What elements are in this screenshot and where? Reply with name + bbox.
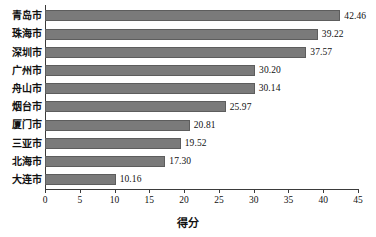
bar [45, 29, 318, 40]
bar [45, 120, 190, 131]
bar-value-label: 37.57 [310, 45, 332, 59]
bar-value-label: 25.97 [230, 100, 252, 114]
bar [45, 174, 116, 185]
x-axis-tick-mark [149, 189, 150, 193]
category-label: 广州市 [0, 65, 42, 77]
category-label: 青岛市 [0, 10, 42, 22]
bar-value-label: 30.14 [259, 81, 281, 95]
bar-value-label: 42.46 [344, 9, 366, 23]
bar-row: 10.16 [45, 171, 358, 189]
bar [45, 47, 306, 58]
x-axis-tick-mark [80, 189, 81, 193]
category-label: 珠海市 [0, 28, 42, 40]
x-axis-tick-label: 35 [284, 194, 294, 206]
x-axis-line [45, 189, 359, 190]
x-axis-tick-label: 45 [353, 194, 363, 206]
x-axis-tick-mark [184, 189, 185, 193]
y-axis-category-labels: 青岛市珠海市深圳市广州市舟山市烟台市厦门市三亚市北海市大连市 [0, 7, 42, 189]
category-label: 厦门市 [0, 119, 42, 131]
x-axis-tick-label: 15 [145, 194, 155, 206]
x-axis-tick-label: 25 [214, 194, 224, 206]
x-axis-tick-label: 5 [77, 194, 82, 206]
x-axis-tick-mark [219, 189, 220, 193]
category-label: 烟台市 [0, 101, 42, 113]
x-axis-tick-mark [254, 189, 255, 193]
x-axis-tick-mark [115, 189, 116, 193]
bar-row: 30.14 [45, 80, 358, 98]
bar-row: 39.22 [45, 25, 358, 43]
bar [45, 65, 255, 76]
bar [45, 156, 165, 167]
bar [45, 83, 255, 94]
bar-row: 37.57 [45, 43, 358, 61]
bar-value-label: 17.30 [169, 154, 191, 168]
bar-row: 20.81 [45, 116, 358, 134]
category-label: 三亚市 [0, 138, 42, 150]
x-axis-tick-mark [288, 189, 289, 193]
category-label: 大连市 [0, 174, 42, 186]
x-axis-tick-mark [323, 189, 324, 193]
category-label: 舟山市 [0, 83, 42, 95]
bar-value-label: 39.22 [322, 27, 344, 41]
x-axis-tick-label: 10 [110, 194, 120, 206]
bar [45, 101, 226, 112]
bar-value-label: 30.20 [259, 63, 281, 77]
bar-row: 19.52 [45, 134, 358, 152]
x-axis-title: 得分 [0, 214, 376, 230]
bar [45, 138, 181, 149]
x-axis-tick-mark [358, 189, 359, 193]
bar-row: 30.20 [45, 62, 358, 80]
x-axis-tick-label: 30 [249, 194, 259, 206]
bar-chart: 青岛市珠海市深圳市广州市舟山市烟台市厦门市三亚市北海市大连市 42.4639.2… [0, 0, 376, 237]
bar-value-label: 10.16 [120, 172, 142, 186]
bar-row: 25.97 [45, 98, 358, 116]
plot-area: 42.4639.2237.5730.2030.1425.9720.8119.52… [45, 7, 358, 189]
category-label: 深圳市 [0, 47, 42, 59]
bar [45, 10, 340, 21]
x-axis-tick-mark [45, 189, 46, 193]
bar-value-label: 20.81 [194, 118, 216, 132]
x-axis-tick-label: 0 [43, 194, 48, 206]
x-axis-tick-label: 20 [179, 194, 189, 206]
bar-row: 17.30 [45, 153, 358, 171]
category-label: 北海市 [0, 156, 42, 168]
x-axis-tick-label: 40 [318, 194, 328, 206]
bar-value-label: 19.52 [185, 136, 207, 150]
bar-row: 42.46 [45, 7, 358, 25]
